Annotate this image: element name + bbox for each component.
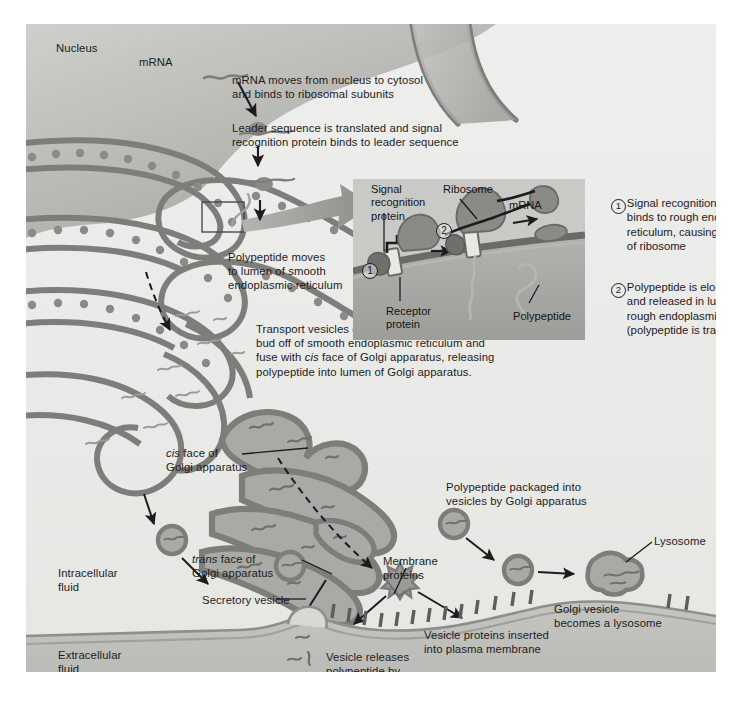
step-2-number: 2: [611, 283, 626, 298]
label-cis-face: cis face of Golgi apparatus: [166, 446, 247, 474]
receptor-protein-2: [463, 230, 480, 258]
label-lysosome: Lysosome: [654, 535, 706, 549]
callout-vesicle-proteins-membrane: Vesicle proteins inserted into plasma me…: [424, 628, 549, 656]
figure-root: Nucleus mRNA mRNA moves from nucleus to …: [0, 0, 752, 722]
label-mrna: mRNA: [139, 56, 173, 70]
label-trans-face: trans face of Golgi apparatus: [192, 552, 273, 580]
label-extracellular-fluid: Extracellular fluid: [58, 648, 121, 672]
callout-leader-sequence: Leader sequence is translated and signal…: [232, 121, 459, 149]
step-2-text: Polypeptide is elongated and released in…: [627, 280, 716, 337]
inset-label-receptor-protein: Receptor protein: [386, 305, 431, 332]
inset-label-signal-recognition-protein: Signal recognition protein: [371, 183, 425, 223]
trans-face-italic: trans: [192, 553, 218, 565]
inset-marker-1: 1: [362, 263, 378, 279]
callout-mrna-export: mRNA moves from nucleus to cytosol and b…: [232, 73, 423, 101]
step-1-text: Signal recognition protein binds to roug…: [627, 196, 716, 253]
cis-italic: cis: [305, 351, 319, 363]
step-note-1: 1Signal recognition protein binds to rou…: [592, 182, 716, 267]
transport-vesicle-1: [158, 526, 186, 554]
diagram-plate: Nucleus mRNA mRNA moves from nucleus to …: [26, 24, 716, 672]
cis-face-italic: cis: [166, 447, 180, 459]
label-intracellular-fluid: Intracellular fluid: [58, 566, 118, 594]
label-nucleus: Nucleus: [56, 42, 98, 56]
step-1-number: 1: [611, 199, 626, 214]
step-note-2: 2Polypeptide is elongated and released i…: [592, 266, 716, 351]
callout-exocytosis: Vesicle releases polypeptide by exocytos…: [326, 650, 409, 672]
callout-golgi-vesicle-lysosome: Golgi vesicle becomes a lysosome: [554, 602, 662, 630]
callout-polypeptide-packaged: Polypeptide packaged into vesicles by Go…: [446, 480, 587, 508]
inset-panel-translocation: Signal recognition protein Ribosome mRNA…: [353, 179, 585, 340]
label-membrane-proteins: Membrane proteins: [383, 554, 438, 582]
inset-label-ribosome: Ribosome: [443, 183, 493, 196]
secretory-vesicle-mid: [276, 552, 304, 580]
callout-polypeptide-lumen: Polypeptide moves to lumen of smooth end…: [228, 250, 343, 293]
inset-marker-2: 2: [436, 223, 452, 239]
label-secretory-vesicle: Secretory vesicle: [202, 594, 290, 608]
inset-label-mrna: mRNA: [509, 199, 542, 212]
inset-label-polypeptide: Polypeptide: [513, 310, 571, 323]
